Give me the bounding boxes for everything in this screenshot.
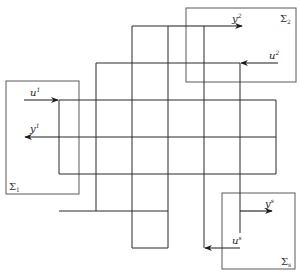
y1-label: y1: [29, 122, 39, 134]
u1-label: u1: [30, 86, 40, 98]
subsystem-labels: Σ1 Σ2 Σs: [9, 13, 291, 268]
interconnection-diagram: u1 y1 y2 u2 ys us Σ1 Σ2 Σs: [0, 0, 300, 275]
interconnection-wires: [59, 26, 276, 248]
sigma2-label: Σ2: [280, 13, 291, 25]
y2-label: y2: [231, 12, 242, 24]
sigma1-label: Σ1: [9, 181, 20, 193]
sigmas-label: Σs: [281, 256, 291, 268]
ys-label: ys: [264, 197, 274, 209]
u2-label: u2: [269, 49, 279, 61]
subsystem-boxes: [6, 8, 296, 269]
us-label: us: [232, 234, 242, 246]
